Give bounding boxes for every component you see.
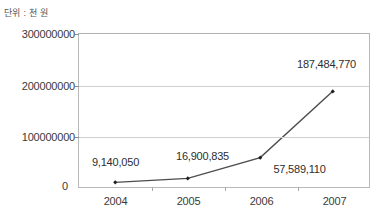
x-axis-tick-label: 2005: [177, 195, 201, 207]
x-axis-tick-mark: [152, 187, 153, 191]
plot-area: 3000000002000000001000000002004200520062…: [78, 33, 370, 188]
gridline: [79, 137, 369, 138]
x-axis-tick-label: 2007: [323, 195, 347, 207]
y-axis-tick-mark: [75, 137, 79, 138]
y-axis-tick-mark: [75, 86, 79, 87]
data-point-label: 57,589,110: [273, 163, 325, 175]
data-point-label: 9,140,050: [92, 156, 139, 168]
y-axis-zero-label: 0: [62, 181, 68, 192]
chart-root: 단위 : 천 원 0 30000000020000000010000000020…: [0, 0, 375, 217]
clipped-caption: [78, 0, 328, 5]
x-axis-tick-label: 2006: [250, 195, 274, 207]
x-axis-tick-label: 2004: [104, 195, 128, 207]
y-axis-tick-label: 200000000: [22, 80, 75, 91]
data-point-label: 16,900,835: [176, 150, 229, 162]
y-axis-tick-label: 300000000: [22, 29, 75, 40]
x-axis-tick-mark: [225, 187, 226, 191]
data-point-marker: [113, 180, 117, 184]
unit-label: 단위 : 천 원: [4, 8, 48, 19]
data-point-label: 187,484,770: [297, 58, 356, 70]
x-axis-tick-mark: [298, 187, 299, 191]
y-axis-tick-label: 100000000: [22, 132, 75, 143]
y-axis-tick-mark: [75, 34, 79, 35]
gridline: [79, 86, 369, 87]
data-point-marker: [186, 176, 190, 180]
